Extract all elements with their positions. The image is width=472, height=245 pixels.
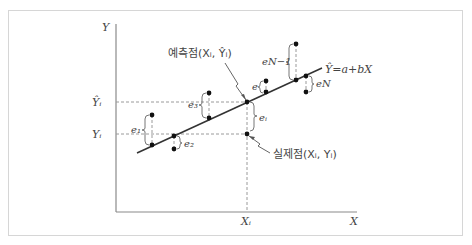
actual-point-n <box>304 90 309 95</box>
x-axis-label: X <box>349 215 359 228</box>
actual-point-1 <box>150 113 155 118</box>
actual-point-3 <box>207 91 212 96</box>
brace-e3 <box>199 93 206 118</box>
reference-lines <box>116 44 306 212</box>
predicted-point-2 <box>172 134 177 139</box>
brace-ei <box>250 102 257 131</box>
residual-e2-label: e₂ <box>184 138 194 149</box>
residual-e3-label: e₃ <box>188 99 198 110</box>
residual-eN-label: eN <box>316 78 332 89</box>
predicted-arrowhead-icon <box>241 94 246 100</box>
actual-point-e <box>264 79 269 84</box>
residual-e-label: e <box>252 81 258 92</box>
predicted-point-1 <box>150 143 155 148</box>
regression-equation: Ŷ=a+bX <box>325 62 373 76</box>
actual-point-label: 실제점(Xᵢ, Yᵢ) <box>273 148 337 161</box>
brace-e2 <box>177 136 182 149</box>
predicted-point-n-1 <box>294 78 299 83</box>
regression-diagram: Y X Ŷᵢ Yᵢ Xᵢ Ŷ=a+bX e₁ e₂ e₃ eᵢ e eN−1 e… <box>0 0 472 245</box>
predicted-point-e <box>264 90 269 95</box>
brace-eN <box>309 76 314 92</box>
predicted-point-3 <box>207 116 212 121</box>
brace-e1 <box>142 115 149 145</box>
predicted-point-i <box>245 100 250 105</box>
actual-point-i <box>245 132 250 137</box>
residual-eN-1-label: eN−1 <box>262 56 291 67</box>
residual-ei-label: eᵢ <box>259 112 267 123</box>
y-axis-label: Y <box>102 21 111 34</box>
actual-point-2 <box>172 147 177 152</box>
predicted-point-label: 예측점(Xᵢ, Ŷᵢ) <box>168 47 232 60</box>
x-tick-label: Xᵢ <box>240 215 251 228</box>
brace-e <box>258 81 263 93</box>
residual-e1-label: e₁ <box>131 124 141 135</box>
predicted-point-n <box>304 74 309 79</box>
actual-point-n-1 <box>294 42 299 47</box>
y-hat-tick-label: Ŷᵢ <box>92 95 101 109</box>
y-tick-label: Yᵢ <box>92 128 101 141</box>
